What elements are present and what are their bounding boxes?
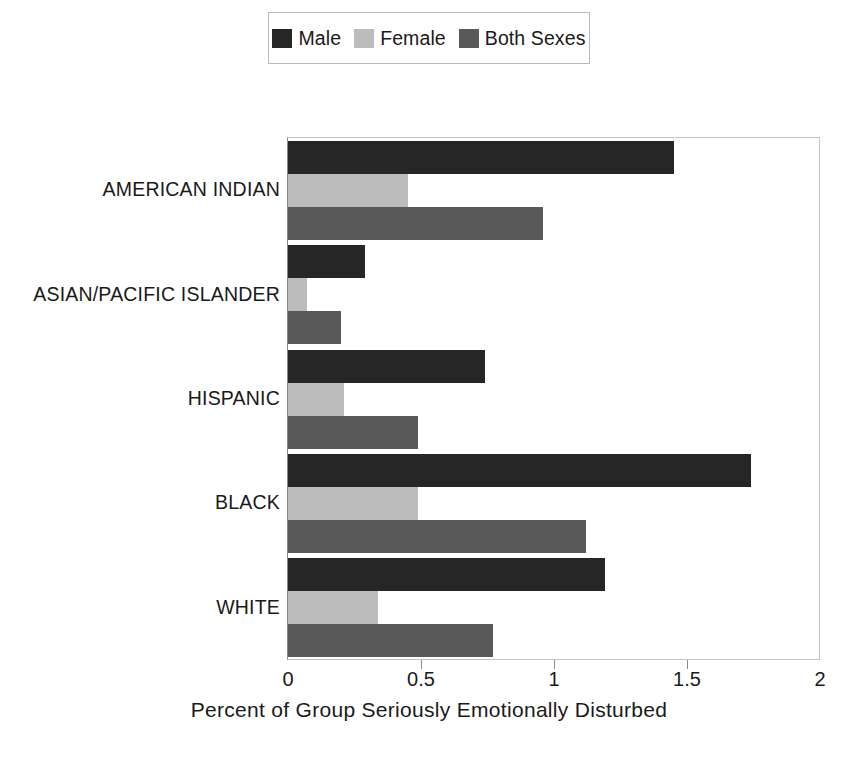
bars-layer [288,138,820,660]
category-label: WHITE [216,596,280,619]
bar [288,520,586,553]
bar [288,278,307,311]
x-axis-tick-label: 0 [282,668,293,691]
bar [288,487,418,520]
category-label: ASIAN/PACIFIC ISLANDER [33,283,280,306]
bar [288,416,418,449]
bar [288,558,605,591]
legend-entry-both-sexes: Both Sexes [459,27,586,50]
bar [288,591,378,624]
category-label: BLACK [215,491,280,514]
legend-swatch-both-sexes-icon [459,29,479,48]
legend-entry-female: Female [354,27,446,50]
x-axis-tick-label: 0.5 [407,668,435,691]
x-axis-title: Percent of Group Seriously Emotionally D… [0,698,858,722]
legend-swatch-female-icon [354,29,374,48]
category-label: AMERICAN INDIAN [103,178,280,201]
bar [288,174,408,207]
bar [288,207,543,240]
bar [288,624,493,657]
bar [288,350,485,383]
legend-entry-male: Male [272,27,341,50]
chart-legend: Male Female Both Sexes [268,12,590,64]
legend-label-female: Female [380,27,446,50]
bar [288,311,341,344]
bar [288,454,751,487]
bar [288,141,674,174]
legend-swatch-male-icon [272,29,292,48]
bar [288,245,365,278]
x-axis-tick-label: 1.5 [673,668,701,691]
legend-label-male: Male [298,27,341,50]
x-axis-tick-label: 1 [548,668,559,691]
bar [288,383,344,416]
legend-label-both-sexes: Both Sexes [485,27,586,50]
category-label: HISPANIC [188,387,280,410]
x-axis-tick-label: 2 [814,668,825,691]
